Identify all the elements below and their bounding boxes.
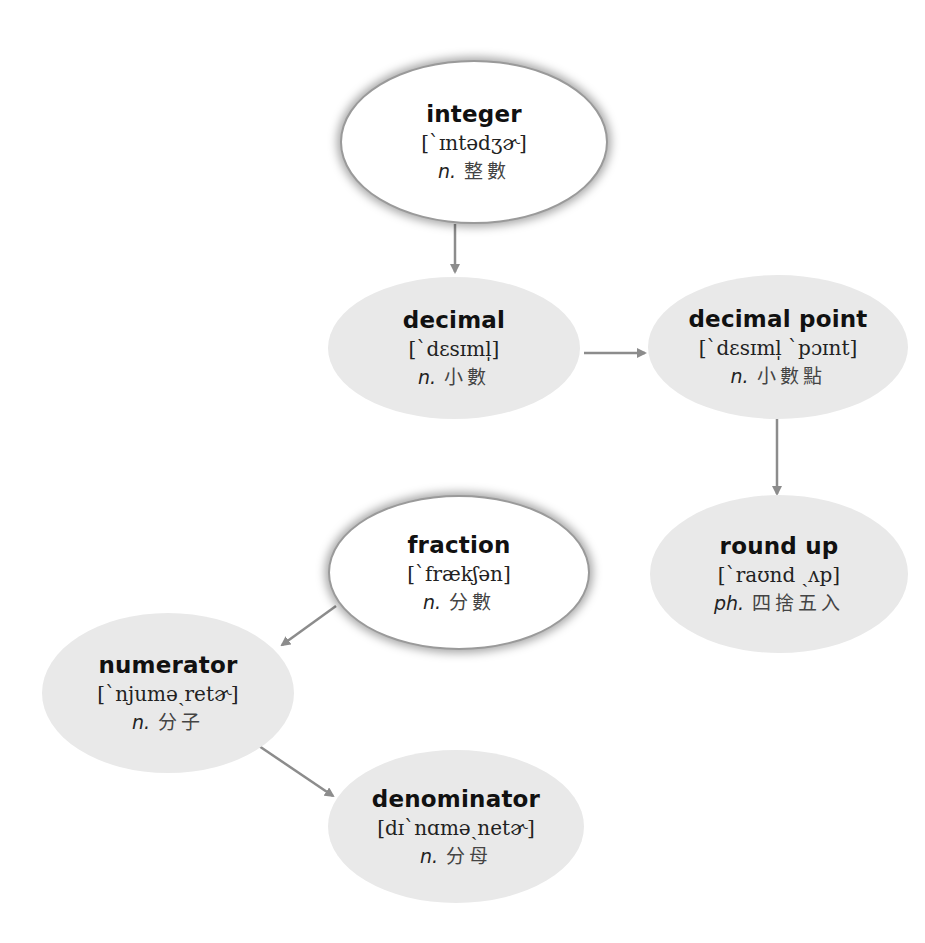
node-phonetic: [`dɛsɪml̩ `pɔɪnt] (699, 334, 857, 362)
node-round-up: round up [`raʊnd ˏʌp] ph.四捨五入 (650, 495, 908, 653)
node-term: denominator (372, 784, 540, 814)
node-decimal: decimal [`dɛsɪml̩] n.小數 (328, 277, 580, 419)
node-definition: n.小數 (418, 363, 490, 391)
node-numerator: numerator [`njuməˏretɚ] n.分子 (42, 613, 294, 773)
chinese-meaning: 分母 (446, 845, 492, 867)
chinese-meaning: 小數 (444, 366, 490, 388)
part-of-speech: n. (420, 845, 438, 867)
node-definition: n.整數 (438, 157, 510, 185)
node-term: fraction (407, 530, 510, 560)
part-of-speech: n. (730, 365, 748, 387)
node-decimal-point: decimal point [`dɛsɪml̩ `pɔɪnt] n.小數點 (648, 275, 908, 419)
arrow-fraction-to-numerator (282, 606, 336, 645)
part-of-speech: n. (423, 591, 441, 613)
node-phonetic: [dɪ`nɑməˏnetɚ] (377, 814, 535, 842)
node-phonetic: [`ɪntədʒɚ] (421, 129, 527, 157)
chinese-meaning: 分數 (449, 591, 495, 613)
node-fraction: fraction [`frækʃən] n.分數 (328, 495, 590, 650)
arrow-numerator-to-denominator (259, 746, 333, 796)
chinese-meaning: 分子 (158, 711, 204, 733)
part-of-speech: n. (418, 366, 436, 388)
part-of-speech: ph. (714, 592, 744, 614)
node-term: decimal point (688, 304, 867, 334)
node-integer: integer [`ɪntədʒɚ] n.整數 (340, 60, 608, 224)
part-of-speech: n. (438, 160, 456, 182)
node-denominator: denominator [dɪ`nɑməˏnetɚ] n.分母 (328, 750, 584, 903)
node-term: decimal (403, 305, 505, 335)
node-phonetic: [`frækʃən] (407, 560, 511, 588)
node-term: numerator (98, 650, 237, 680)
node-phonetic: [`raʊnd ˏʌp] (718, 561, 840, 589)
part-of-speech: n. (132, 711, 150, 733)
chinese-meaning: 整數 (464, 160, 510, 182)
node-phonetic: [`dɛsɪml̩] (409, 335, 500, 363)
node-definition: n.小數點 (730, 362, 825, 390)
node-definition: n.分母 (420, 842, 492, 870)
chinese-meaning: 小數點 (757, 365, 826, 387)
node-term: integer (426, 99, 522, 129)
node-definition: n.分數 (423, 588, 495, 616)
node-definition: ph.四捨五入 (714, 589, 844, 617)
node-phonetic: [`njuməˏretɚ] (97, 680, 238, 708)
node-definition: n.分子 (132, 708, 204, 736)
chinese-meaning: 四捨五入 (752, 592, 844, 614)
node-term: round up (720, 531, 839, 561)
